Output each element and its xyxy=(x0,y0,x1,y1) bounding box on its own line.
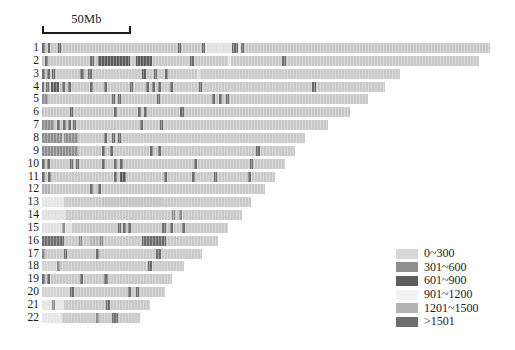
chromosome-bar xyxy=(42,313,140,323)
density-segment xyxy=(160,94,212,104)
density-segment xyxy=(42,261,57,271)
density-segment xyxy=(133,82,146,92)
density-segment xyxy=(161,82,170,92)
density-segment xyxy=(42,184,50,194)
density-segment xyxy=(162,197,251,207)
density-segment xyxy=(73,107,114,117)
density-segment xyxy=(168,69,197,79)
chromosome-label: 15 xyxy=(5,221,39,234)
density-segment xyxy=(45,249,64,259)
chromosome-label: 13 xyxy=(5,195,39,208)
chromosome-row: 13 xyxy=(0,197,515,207)
density-segment xyxy=(200,69,400,79)
chromosome-label: 22 xyxy=(5,311,39,324)
chromosome-bar xyxy=(42,43,490,53)
density-segment xyxy=(42,236,64,246)
chromosome-label: 9 xyxy=(5,144,39,157)
density-segment xyxy=(48,56,90,66)
scale-bar-tick-left xyxy=(42,26,44,34)
density-segment xyxy=(123,159,194,169)
legend-swatch xyxy=(396,276,418,286)
chromosome-label: 14 xyxy=(5,208,39,221)
chromosome-row: 3 xyxy=(0,69,515,79)
chromosome-label: 5 xyxy=(5,92,39,105)
density-segment xyxy=(90,236,100,246)
legend-swatch xyxy=(396,290,418,300)
chromosome-bar xyxy=(42,249,202,259)
chromosome-bar xyxy=(42,287,165,297)
density-segment xyxy=(78,146,102,156)
chromosome-density-figure: 50Mb 12345678910111213141516171819202122… xyxy=(0,0,515,350)
density-segment xyxy=(194,56,228,66)
density-segment xyxy=(286,56,479,66)
chromosome-label: 19 xyxy=(5,272,39,285)
chromosome-bar xyxy=(42,223,228,233)
density-segment xyxy=(244,43,490,53)
scale-bar-tick-right xyxy=(129,26,131,34)
chromosome-bar xyxy=(42,274,172,284)
density-segment xyxy=(42,287,70,297)
chromosome-label: 21 xyxy=(5,298,39,311)
chromosome-label: 1 xyxy=(5,41,39,54)
legend-label: 0~300 xyxy=(424,247,455,260)
density-segment xyxy=(136,56,152,66)
density-segment xyxy=(42,133,62,143)
density-segment xyxy=(126,172,164,182)
chromosome-bar xyxy=(42,107,350,117)
density-segment xyxy=(61,43,178,53)
density-segment xyxy=(93,82,104,92)
density-segment xyxy=(64,300,106,310)
density-segment xyxy=(231,56,282,66)
legend-label: 1201~1500 xyxy=(424,302,479,315)
density-segment xyxy=(253,159,285,169)
chromosome-label: 3 xyxy=(5,67,39,80)
chromosome-row: 7 xyxy=(0,120,515,130)
density-segment xyxy=(205,43,232,53)
density-segment xyxy=(102,197,162,207)
density-segment xyxy=(143,120,160,130)
chromosome-bar xyxy=(42,120,328,130)
density-segment xyxy=(56,184,90,194)
density-segment xyxy=(147,107,180,117)
density-segment xyxy=(62,313,96,323)
chromosome-bar xyxy=(42,133,305,143)
chromosome-label: 7 xyxy=(5,118,39,131)
density-segment xyxy=(113,146,150,156)
chromosome-label: 11 xyxy=(5,170,39,183)
chromosome-row: 2 xyxy=(0,56,515,66)
density-segment xyxy=(42,197,64,207)
chromosome-row: 6 xyxy=(0,107,515,117)
chromosome-row: 15 xyxy=(0,223,515,233)
density-segment xyxy=(229,94,368,104)
chromosome-bar xyxy=(42,261,184,271)
chromosome-bar xyxy=(42,236,218,246)
density-segment xyxy=(51,172,114,182)
chromosome-bar xyxy=(42,56,479,66)
scale-bar: 50Mb xyxy=(42,14,131,36)
density-segment xyxy=(121,133,305,143)
scale-bar-label: 50Mb xyxy=(42,12,131,27)
chromosome-bar xyxy=(42,82,385,92)
density-segment xyxy=(142,236,166,246)
density-segment xyxy=(66,210,172,220)
chromosome-row: 4 xyxy=(0,82,515,92)
density-segment xyxy=(50,159,70,169)
chromosome-bar xyxy=(42,94,368,104)
density-segment xyxy=(42,313,62,323)
density-segment xyxy=(184,107,350,117)
density-segment xyxy=(78,133,104,143)
density-segment xyxy=(99,313,112,323)
density-segment xyxy=(121,94,157,104)
density-segment xyxy=(101,184,265,194)
density-segment xyxy=(98,56,130,66)
density-segment xyxy=(107,82,130,92)
density-segment xyxy=(76,120,140,130)
density-segment xyxy=(42,300,52,310)
legend-label: 601~900 xyxy=(424,274,467,287)
density-segment xyxy=(167,172,192,182)
density-segment xyxy=(202,82,312,92)
density-segment xyxy=(92,69,142,79)
density-segment xyxy=(60,261,148,271)
density-segment xyxy=(42,210,66,220)
chromosome-bar xyxy=(42,146,295,156)
